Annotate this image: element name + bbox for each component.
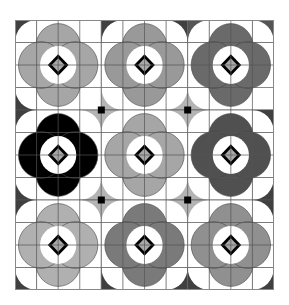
junction-square	[98, 197, 105, 204]
junction-square	[184, 107, 191, 114]
tile-2-1	[101, 200, 187, 290]
tile-pattern	[15, 20, 274, 290]
tile-1-2	[188, 110, 274, 200]
tile-2-2	[188, 200, 274, 290]
tile-2-0	[15, 200, 101, 290]
tile-0-2	[188, 20, 274, 110]
tile-0-0	[15, 20, 101, 110]
junction-square	[184, 197, 191, 204]
junction-square	[98, 107, 105, 114]
tile-0-1	[101, 20, 187, 110]
tile-1-0	[15, 110, 101, 200]
tile-pattern-svg	[15, 20, 274, 290]
tile-1-1	[101, 110, 187, 200]
